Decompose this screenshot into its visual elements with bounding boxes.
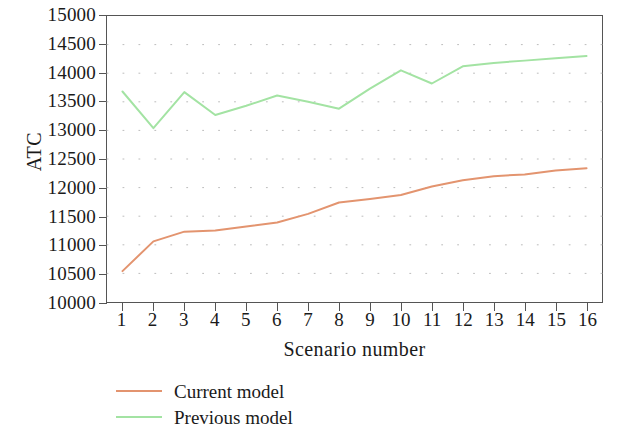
x-tick-mark bbox=[401, 303, 402, 311]
legend-color-swatch bbox=[116, 390, 162, 392]
x-axis-tick-labels: 12345678910111213141516 bbox=[0, 0, 628, 40]
legend-label: Previous model bbox=[174, 408, 293, 427]
legend-label: Current model bbox=[174, 382, 284, 401]
plot-area bbox=[106, 15, 603, 303]
x-tick-mark bbox=[308, 303, 309, 311]
x-tick-mark bbox=[494, 303, 495, 311]
series-line bbox=[122, 56, 586, 128]
x-tick-mark bbox=[215, 303, 216, 311]
x-tick-mark bbox=[246, 303, 247, 311]
y-tick-label: 13000 bbox=[0, 120, 96, 139]
x-tick-mark bbox=[339, 303, 340, 311]
x-tick-mark bbox=[556, 303, 557, 311]
y-tick-label: 11000 bbox=[0, 235, 96, 254]
x-tick-mark bbox=[184, 303, 185, 311]
y-tick-mark bbox=[99, 303, 107, 304]
y-tick-label: 14000 bbox=[0, 63, 96, 82]
y-tick-label: 10500 bbox=[0, 264, 96, 283]
x-tick-mark bbox=[432, 303, 433, 311]
y-tick-label: 12500 bbox=[0, 149, 96, 168]
x-tick-mark bbox=[370, 303, 371, 311]
y-tick-label: 10000 bbox=[0, 293, 96, 312]
y-tick-label: 11500 bbox=[0, 207, 96, 226]
legend-color-swatch bbox=[116, 416, 162, 418]
y-tick-label: 13500 bbox=[0, 91, 96, 110]
y-tick-label: 12000 bbox=[0, 178, 96, 197]
x-tick-mark bbox=[122, 303, 123, 311]
series-line bbox=[122, 168, 586, 271]
legend-item: Previous model bbox=[110, 404, 470, 430]
x-axis-title: Scenario number bbox=[106, 338, 603, 361]
x-tick-mark bbox=[277, 303, 278, 311]
x-tick-mark bbox=[153, 303, 154, 311]
chart-legend: Current modelPrevious model bbox=[110, 378, 470, 430]
x-tick-label: 16 bbox=[567, 310, 607, 329]
x-tick-mark bbox=[463, 303, 464, 311]
chart-figure: ATC 100001050011000115001200012500130001… bbox=[0, 0, 628, 433]
data-series-layer bbox=[107, 16, 602, 302]
x-tick-mark bbox=[587, 303, 588, 311]
y-axis-tick-labels: 1000010500110001150012000125001300013500… bbox=[0, 0, 96, 433]
x-tick-mark bbox=[525, 303, 526, 311]
legend-item: Current model bbox=[110, 378, 470, 404]
